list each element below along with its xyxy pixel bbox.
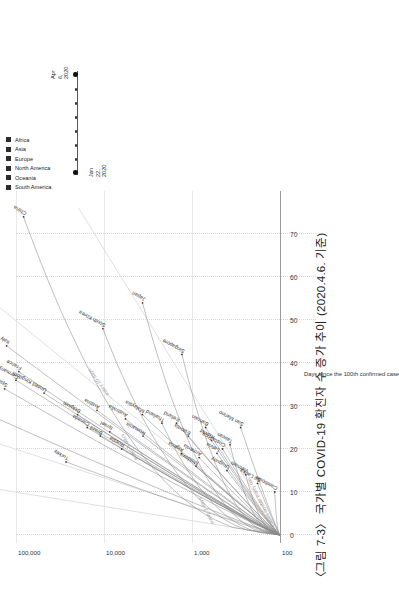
date-scale-axis — [77, 71, 78, 175]
date-scale-start-label: Jan 22, 2020 — [88, 165, 108, 177]
date-scale-track — [70, 67, 84, 175]
legend-swatch-icon — [6, 147, 11, 152]
continent-legend: AfricaAsiaEuropeNorth AmericaOceaniaSout… — [6, 135, 126, 192]
legend-swatch-icon — [6, 156, 11, 161]
y-tick-100000: 100,000 — [18, 549, 40, 556]
legend-item-asia[interactable]: Asia — [6, 145, 126, 155]
series-line-italy — [7, 346, 280, 535]
legend-swatch-icon — [6, 166, 11, 171]
date-scale-dot — [75, 88, 78, 91]
chart-plot-area: Cases double every day ... every 2 days … — [16, 191, 316, 543]
legend-item-europe[interactable]: Europe — [6, 154, 126, 164]
x-tick-30: 30 — [290, 403, 297, 410]
x-tick-0: 0 — [290, 532, 294, 539]
legend-item-label: North America — [15, 165, 50, 171]
legend-swatch-icon — [6, 185, 11, 190]
doubling-guide-2-day — [0, 432, 280, 535]
country-label-spain: Spain — [0, 377, 8, 389]
x-tick-40: 40 — [290, 360, 297, 367]
legend-swatch-icon — [6, 175, 11, 180]
legend-item-north-america[interactable]: North America — [6, 164, 126, 174]
date-scale-legend: Jan 22, 2020 Apr 6, 2020 — [70, 25, 84, 175]
y-tick-100: 100 — [282, 549, 292, 556]
date-scale-start-marker — [73, 171, 78, 176]
country-label-italy: Italy — [0, 336, 10, 346]
series-line-south-korea — [103, 329, 280, 535]
date-scale-dot — [75, 116, 78, 119]
legend-item-oceania[interactable]: Oceania — [6, 173, 126, 183]
legend-item-africa[interactable]: Africa — [6, 135, 126, 145]
x-tick-10: 10 — [290, 489, 297, 496]
date-scale-dot — [75, 144, 78, 147]
date-scale-dot — [75, 102, 78, 105]
country-curves — [16, 191, 316, 543]
x-axis-title: Days since the 100th confirmed case — [304, 371, 399, 377]
x-tick-60: 60 — [290, 274, 297, 281]
date-scale-dot — [75, 130, 78, 133]
legend-item-label: Africa — [15, 137, 29, 143]
y-tick-10000: 10,000 — [106, 549, 125, 556]
legend-item-label: South America — [15, 184, 51, 190]
x-tick-50: 50 — [290, 317, 297, 324]
date-scale-dot — [75, 158, 78, 161]
x-tick-70: 70 — [290, 231, 297, 238]
legend-swatch-icon — [6, 137, 11, 142]
y-tick-1000: 1,000 — [194, 549, 209, 556]
doubling-guide-1-day — [0, 484, 280, 535]
legend-item-label: Oceania — [15, 175, 36, 181]
legend-item-label: Asia — [15, 146, 26, 152]
x-tick-20: 20 — [290, 446, 297, 453]
date-scale-end-marker — [73, 73, 78, 78]
date-scale-end-label: Apr 6, 2020 — [50, 67, 70, 79]
legend-item-label: Europe — [15, 156, 33, 162]
